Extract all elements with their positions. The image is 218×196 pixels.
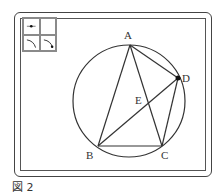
arc-point-icon <box>41 36 56 51</box>
label-e: E <box>135 94 142 106</box>
select-tool-button[interactable] <box>41 19 56 34</box>
segment-bd <box>98 78 178 146</box>
label-a: A <box>124 29 132 41</box>
segment-ad <box>130 45 178 78</box>
arc-icon <box>24 36 39 51</box>
tool-palette <box>22 17 57 52</box>
segment-cd <box>162 78 178 146</box>
point-icon <box>24 19 39 34</box>
arc-tool-button[interactable] <box>24 36 39 51</box>
segment-ab <box>98 45 130 146</box>
point-d-marker[interactable] <box>176 76 181 81</box>
point-tool-button[interactable] <box>24 19 39 34</box>
circumcircle <box>73 45 185 157</box>
arc-point-tool-button[interactable] <box>41 36 56 51</box>
figure-caption: 図 2 <box>12 178 34 194</box>
label-d: D <box>182 72 190 84</box>
label-b: B <box>86 149 93 161</box>
label-c: C <box>161 149 168 161</box>
